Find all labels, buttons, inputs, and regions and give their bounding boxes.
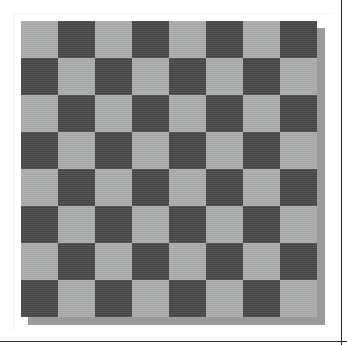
board-square bbox=[21, 21, 58, 58]
board-square bbox=[21, 132, 58, 169]
board-square bbox=[132, 132, 169, 169]
board-square bbox=[132, 169, 169, 206]
board-square bbox=[243, 132, 280, 169]
board-square bbox=[95, 132, 132, 169]
board-square bbox=[95, 169, 132, 206]
board-square bbox=[58, 280, 95, 317]
board-square bbox=[95, 95, 132, 132]
board-square bbox=[206, 95, 243, 132]
board-square bbox=[58, 58, 95, 95]
board-square bbox=[280, 132, 317, 169]
board-square bbox=[280, 280, 317, 317]
board-square bbox=[280, 95, 317, 132]
board-square bbox=[169, 95, 206, 132]
board-square bbox=[206, 243, 243, 280]
board-square bbox=[169, 243, 206, 280]
board-square bbox=[95, 206, 132, 243]
board-square bbox=[58, 21, 95, 58]
board-square bbox=[206, 280, 243, 317]
board-square bbox=[243, 280, 280, 317]
board-square bbox=[95, 58, 132, 95]
board-square bbox=[169, 58, 206, 95]
board-square bbox=[280, 21, 317, 58]
board-square bbox=[243, 243, 280, 280]
page-right-border bbox=[341, 0, 342, 345]
board-square bbox=[132, 243, 169, 280]
board-square bbox=[132, 95, 169, 132]
board-square bbox=[280, 206, 317, 243]
board-square bbox=[132, 280, 169, 317]
board-square bbox=[132, 21, 169, 58]
board-square bbox=[21, 206, 58, 243]
board-square bbox=[95, 280, 132, 317]
board-square bbox=[243, 206, 280, 243]
board-square bbox=[21, 58, 58, 95]
board-square bbox=[58, 243, 95, 280]
board-square bbox=[58, 206, 95, 243]
board-square bbox=[21, 243, 58, 280]
board-square bbox=[206, 58, 243, 95]
board-square bbox=[243, 58, 280, 95]
board-square bbox=[58, 132, 95, 169]
board-square bbox=[95, 21, 132, 58]
board-square bbox=[21, 169, 58, 206]
board-square bbox=[132, 206, 169, 243]
board-square bbox=[95, 243, 132, 280]
page-bottom-border bbox=[0, 341, 347, 342]
board-square bbox=[169, 169, 206, 206]
board-square bbox=[206, 132, 243, 169]
board-square bbox=[280, 169, 317, 206]
board-square bbox=[280, 58, 317, 95]
board-square bbox=[206, 169, 243, 206]
board-square bbox=[169, 21, 206, 58]
board-square bbox=[243, 169, 280, 206]
board-square bbox=[169, 132, 206, 169]
board-square bbox=[169, 280, 206, 317]
page-left-rule bbox=[13, 13, 14, 331]
board-square bbox=[132, 58, 169, 95]
board-square bbox=[243, 95, 280, 132]
page-top-rule bbox=[13, 13, 333, 14]
board-square bbox=[21, 280, 58, 317]
board-square bbox=[169, 206, 206, 243]
board-square bbox=[243, 21, 280, 58]
board-square bbox=[206, 206, 243, 243]
board-square bbox=[206, 21, 243, 58]
checkerboard bbox=[21, 21, 317, 317]
board-square bbox=[280, 243, 317, 280]
board-square bbox=[58, 95, 95, 132]
board-square bbox=[21, 95, 58, 132]
board-square bbox=[58, 169, 95, 206]
page-canvas bbox=[0, 0, 347, 345]
